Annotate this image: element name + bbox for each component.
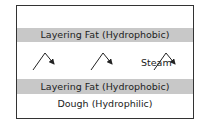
diagram-frame: Layering Fat (Hydrophobic) Steam Layerin… <box>16 5 194 119</box>
steam-label: Steam <box>141 57 172 68</box>
layering-fat-bottom: Layering Fat (Hydrophobic) <box>17 79 193 94</box>
dough-layer: Dough (Hydrophilic) <box>17 94 193 114</box>
